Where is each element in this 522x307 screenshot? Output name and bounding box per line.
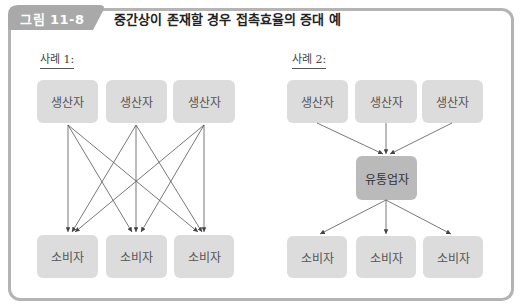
case1-label: 사례 1: bbox=[40, 50, 74, 69]
case2-consumer-2: 소비자 bbox=[356, 236, 416, 278]
case2-producer-1: 생산자 bbox=[287, 80, 348, 123]
case2-label: 사례 2: bbox=[292, 50, 326, 69]
figure-title: 중간상이 존재할 경우 접촉효율의 증대 예 bbox=[114, 9, 341, 28]
figure-number: 그림 11-8 bbox=[20, 9, 85, 28]
case2-producer-2: 생산자 bbox=[355, 80, 417, 123]
case1-producer-3: 생산자 bbox=[173, 80, 235, 123]
case2-intermediary: 유통업자 bbox=[356, 156, 417, 200]
case1-consumer-1: 소비자 bbox=[37, 235, 98, 278]
case1-consumer-3: 소비자 bbox=[174, 235, 234, 278]
case2-consumer-1: 소비자 bbox=[287, 236, 347, 278]
case2-consumer-3: 소비자 bbox=[423, 236, 483, 278]
case1-consumer-2: 소비자 bbox=[106, 235, 167, 278]
case2-producer-3: 생산자 bbox=[422, 80, 483, 123]
case1-producer-1: 생산자 bbox=[37, 80, 98, 123]
case1-producer-2: 생산자 bbox=[106, 80, 167, 123]
